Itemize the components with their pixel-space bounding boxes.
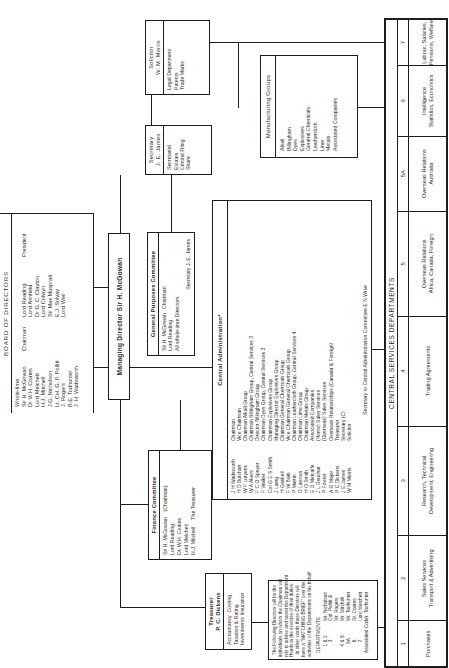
dept-label: Labour, Salaries, Pensions, Welfare	[409, 20, 447, 65]
dept-number: 7	[398, 20, 409, 65]
solicitor-name: W. M. Morris	[155, 23, 162, 92]
board-wholetime-label: Whole-time	[14, 220, 21, 407]
treasurer-name: P. C. Dickens	[215, 576, 222, 647]
dept-label: Trading Agreements	[409, 317, 447, 426]
central-services-departments: CENTRAL SERVICES DEPARTMENTS 1 Purchases…	[384, 18, 448, 668]
dept-number: 5A	[398, 137, 409, 211]
watching-brief-box: The Following Directors will be the indi…	[268, 580, 378, 660]
secretary-title: Secretary	[148, 128, 155, 172]
finance-committee-members: Sir H. McGowan (Chairman) Lord Reading D…	[160, 451, 199, 559]
treasurer-title: Treasurer	[208, 576, 215, 647]
solicitor-header: Solicitor W. M. Morris	[146, 21, 164, 94]
general-purposes-secretary: Secretary J. E. James	[185, 239, 191, 290]
managing-director-box: Managing Director Sir H. McGowan	[108, 233, 130, 400]
dept-cell-5: 5 Overseas Relations Africa, Canada, For…	[398, 211, 447, 316]
dept-number: 2	[398, 536, 409, 620]
solicitor-duties: Legal Department Patents Trade Marks	[164, 21, 187, 94]
watching-brief-dept-numbers: 1 & 2 3 4 & 5 5A 6 7 Associated Cos.	[323, 629, 370, 653]
manufacturing-groups-list: Alkali Billingham Dyes Explosives Genera…	[276, 56, 341, 157]
treasurer-duties: Accountancy Costing Taxation & Rating In…	[224, 574, 247, 649]
managing-director-title: Managing Director Sir H. McGowan	[116, 258, 123, 376]
treasurer-header: Treasurer P. C. Dickens	[206, 574, 224, 649]
dept-cell-7: 7 Labour, Salaries, Pensions, Welfare	[398, 20, 447, 65]
central-admin-footer: Secretary to Central Administration Comm…	[362, 201, 368, 499]
connector	[120, 175, 121, 233]
connector	[378, 627, 384, 628]
departments-label: DEPARTMENTS	[314, 581, 321, 659]
connector	[151, 95, 152, 125]
central-admin-roles: Chairman Vice Chairman Chairman Alkali G…	[230, 332, 352, 442]
secretary-duties: Secretarial Estates Central Filing Share	[164, 126, 194, 174]
dept-label: Overseas Relations Africa, Canada, Forei…	[409, 212, 447, 316]
dept-label: Intelligence Statistics, Economics	[409, 66, 447, 135]
watching-brief-note: The Following Directors will be the indi…	[269, 581, 314, 659]
connector	[171, 175, 172, 232]
central-services-title: CENTRAL SERVICES DEPARTMENTS	[386, 20, 398, 666]
connector	[120, 607, 205, 608]
dept-number: 3	[398, 427, 409, 536]
dept-cell-6: 6 Intelligence Statistics, Economics	[398, 65, 447, 135]
central-administration-box: Central Administration* J H Wadsworth H …	[212, 200, 372, 500]
connector	[130, 367, 212, 368]
dept-number: 5	[398, 212, 409, 316]
watching-brief-directors: Mr. Nicholson Col. Pollitt & Mr. Rogers …	[323, 592, 370, 621]
manufacturing-groups-box: Manufacturing Groups Alkali Billingham D…	[260, 55, 358, 158]
dept-cell-2: 2 Sales Services Transport & Advertising	[398, 535, 447, 620]
dept-label: Overseas Relations Australia	[409, 137, 447, 211]
solicitor-box: Solicitor W. M. Morris Legal Department …	[145, 20, 210, 95]
treasurer-box: Treasurer P. C. Dickens Accountancy Cost…	[205, 573, 252, 650]
manufacturing-groups-title: Manufacturing Groups	[261, 56, 276, 157]
dept-cell-4: 4 Trading Agreements	[398, 316, 447, 426]
secretary-name: J. E. James	[155, 128, 162, 172]
board-wholetime-roles: Chairman	[21, 317, 80, 351]
finance-committee-title: Finance Committee	[149, 451, 160, 559]
general-purposes-title: General Purposes Committee	[148, 233, 159, 355]
dept-cell-3: 3 Research, Technical Development, Engin…	[398, 426, 447, 536]
connector	[120, 504, 148, 505]
board-other-roles: President	[21, 233, 80, 257]
board-title: BOARD OF DIRECTORS	[0, 214, 12, 413]
board-other-names: Lord Reading Lord Ashfield Dr G. C. Clay…	[21, 257, 80, 317]
general-purposes-committee-box: General Purposes Committee Sir H. McGowa…	[147, 232, 195, 356]
general-purposes-members: Sir H. McGowan Chairman Lord Reading All…	[159, 233, 182, 355]
connector	[372, 349, 384, 350]
dept-label: Purchases	[409, 621, 447, 666]
connector	[210, 42, 384, 43]
dept-number: 1	[398, 621, 409, 666]
dept-cell-5a: 5A Overseas Relations Australia	[398, 136, 447, 211]
connector	[358, 107, 384, 108]
connector	[238, 43, 239, 108]
connector	[180, 400, 181, 450]
dept-number: 4	[398, 317, 409, 426]
board-of-directors-box: BOARD OF DIRECTORS Whole-time Sir H. McG…	[0, 213, 94, 413]
finance-committee-box: Finance Committee Sir H. McGowan (Chairm…	[148, 450, 212, 560]
board-wholetime-names: Sir H. McGowan Dr W.H. Coates Lord Melch…	[21, 351, 80, 407]
central-admin-names: J H Wadsworth H D Butchart W F Lutyens W…	[230, 441, 352, 493]
dept-label: Sales Services Transport & Advertising	[409, 536, 447, 620]
dept-label: Research, Technical Development, Enginee…	[409, 427, 447, 536]
dept-cell-1: 1 Purchases	[398, 620, 447, 666]
dept-number: 6	[398, 66, 409, 135]
org-chart: BOARD OF DIRECTORS Whole-time Sir H. McG…	[0, 0, 449, 668]
solicitor-title: Solicitor	[148, 23, 155, 92]
secretary-header: Secretary J. E. James	[146, 126, 164, 174]
central-admin-title: Central Administration*	[213, 201, 228, 499]
connector	[252, 622, 268, 623]
secretary-box: Secretary J. E. James Secretarial Estate…	[145, 125, 212, 175]
